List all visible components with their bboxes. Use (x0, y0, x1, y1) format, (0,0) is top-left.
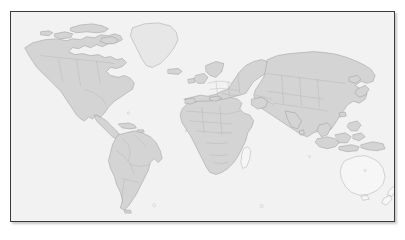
world-map-figure (10, 11, 395, 222)
ireland-island (188, 78, 195, 83)
taiwan-island (339, 112, 346, 117)
world-map-svg (11, 12, 394, 221)
tierra-del-fuego-island (124, 210, 131, 213)
sri-lanka-island (299, 130, 304, 135)
